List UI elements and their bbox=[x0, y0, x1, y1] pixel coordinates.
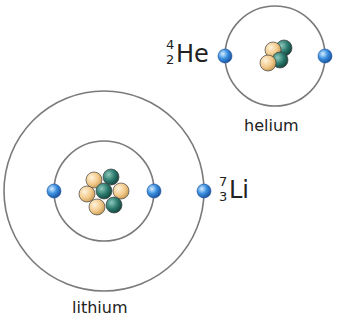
lithium-atomic-number: 3 bbox=[219, 190, 227, 203]
electron bbox=[218, 49, 232, 63]
helium-label: helium bbox=[244, 116, 299, 135]
electron bbox=[197, 184, 211, 198]
lithium-mass-number: 7 bbox=[219, 175, 227, 188]
neutron bbox=[103, 169, 119, 185]
helium-atomic-number: 2 bbox=[166, 53, 174, 66]
lithium-label: lithium bbox=[72, 298, 127, 316]
helium-mass-number: 4 bbox=[166, 38, 174, 51]
lithium-atom bbox=[4, 91, 211, 291]
electron bbox=[147, 184, 161, 198]
neutron bbox=[96, 183, 112, 199]
lithium-symbol: Li bbox=[229, 178, 249, 202]
neutron bbox=[106, 197, 122, 213]
helium-atom bbox=[218, 6, 332, 106]
proton bbox=[113, 183, 129, 199]
helium-nucleus bbox=[260, 40, 292, 71]
lithium-nucleus bbox=[79, 169, 129, 215]
proton bbox=[260, 55, 276, 71]
helium-symbol: He bbox=[176, 42, 209, 66]
proton bbox=[79, 186, 95, 202]
electron bbox=[47, 184, 61, 198]
proton bbox=[89, 199, 105, 215]
electron bbox=[318, 49, 332, 63]
